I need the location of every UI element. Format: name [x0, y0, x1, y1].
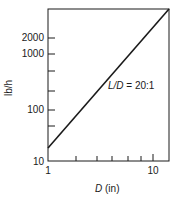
- annotation-var: L/D: [108, 80, 124, 91]
- x-axis-ticks: [76, 154, 153, 161]
- y-tick-100: 100: [27, 104, 44, 115]
- y-axis-label: lb/h: [3, 80, 14, 96]
- annotation-value: = 20:1: [124, 80, 155, 91]
- x-axis-var: D: [95, 183, 102, 194]
- chart: 2000 1000 100 10 1 10 lb/h D (in) L/D = …: [0, 0, 183, 197]
- y-tick-1000: 1000: [22, 48, 45, 59]
- y-axis-ticks: [48, 38, 55, 126]
- y-tick-10: 10: [33, 156, 45, 167]
- x-tick-1: 1: [45, 165, 51, 176]
- x-axis-unit: (in): [102, 183, 119, 194]
- y-tick-2000: 2000: [22, 32, 45, 43]
- x-tick-10: 10: [147, 165, 159, 176]
- series-line-ld-20-1: [48, 9, 169, 148]
- x-axis-label: D (in): [95, 183, 119, 194]
- series-annotation: L/D = 20:1: [108, 80, 155, 91]
